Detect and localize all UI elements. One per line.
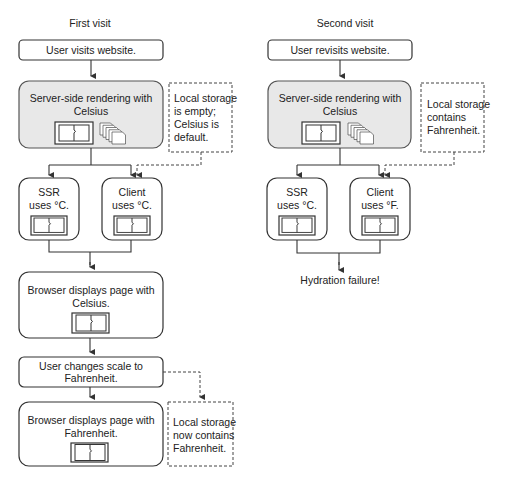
page-component-icon xyxy=(302,122,340,144)
browser-celsius-box: Browser displays page with Celsius. xyxy=(19,272,163,338)
change-scale-line1: User changes scale to xyxy=(39,360,143,372)
client-uses-c-box: Client uses °C. xyxy=(102,178,162,240)
ssr-box2-line1: SSR xyxy=(286,186,308,198)
hydration-failure-label: Hydration failure! xyxy=(300,274,379,286)
ssr-label-line1: Server-side rendering with xyxy=(30,92,153,104)
ssr-celsius-box: Server-side rendering with Celsius xyxy=(19,81,163,148)
client-box-line2: uses °C. xyxy=(112,199,152,211)
ssr-box-line2: uses °C. xyxy=(29,199,69,211)
storage-note-fahrenheit: Local storage now contains Fahrenheit. xyxy=(168,402,236,466)
page-component-icon xyxy=(114,216,150,235)
storage-note3-line2: contains xyxy=(427,111,466,123)
ssr-box-line1: SSR xyxy=(38,186,60,198)
first-visit-title: First visit xyxy=(69,17,110,29)
ssr-celsius-box-2: Server-side rendering with Celsius xyxy=(268,81,411,148)
ssr-box2-line2: uses °C. xyxy=(277,199,317,211)
client-box2-line2: uses °F. xyxy=(361,199,398,211)
browser-fahrenheit-line2: Fahrenheit. xyxy=(64,427,117,439)
browser-celsius-line2: Celsius. xyxy=(72,297,109,309)
hydration-diagram: First visit User visits website. Server-… xyxy=(0,0,505,483)
user-visits-box: User visits website. xyxy=(19,40,163,60)
ssr-uses-c-box-2: SSR uses °C. xyxy=(267,178,327,240)
second-visit-title: Second visit xyxy=(317,17,374,29)
storage-note-line2: is empty; xyxy=(174,105,216,117)
ssr-uses-c-box: SSR uses °C. xyxy=(19,178,79,240)
storage-note3-line1: Local storage xyxy=(427,98,490,110)
storage-note2-line3: Fahrenheit. xyxy=(173,442,226,454)
ssr2-label-line2: Celsius xyxy=(323,105,357,117)
browser-fahrenheit-box: Browser displays page with Fahrenheit. xyxy=(19,402,163,466)
user-revisits-box: User revisits website. xyxy=(268,40,412,60)
client-box-line1: Client xyxy=(119,186,146,198)
page-component-icon xyxy=(31,216,67,235)
browser-celsius-line1: Browser displays page with xyxy=(27,284,154,296)
client-uses-f-box: Client uses °F. xyxy=(350,178,410,240)
ssr-label-line2: Celsius xyxy=(74,105,108,117)
page-component-icon xyxy=(55,122,93,144)
storage-note-empty: Local storage is empty; Celsius is defau… xyxy=(169,83,237,152)
page-component-icon xyxy=(362,216,398,235)
user-revisits-label: User revisits website. xyxy=(290,44,389,56)
page-component-icon xyxy=(71,443,108,462)
change-scale-line2: Fahrenheit. xyxy=(64,372,117,384)
storage-note2-line1: Local storage xyxy=(173,416,236,428)
storage-note2-line2: now contains xyxy=(173,429,234,441)
second-visit-column: Second visit User revisits website. Serv… xyxy=(267,17,490,286)
first-visit-column: First visit User visits website. Server-… xyxy=(19,17,237,466)
storage-note3-line3: Fahrenheit. xyxy=(427,124,480,136)
page-component-icon xyxy=(279,216,315,235)
storage-note-line3: Celsius is xyxy=(174,118,219,130)
storage-note-line4: default. xyxy=(174,131,208,143)
browser-fahrenheit-line1: Browser displays page with xyxy=(27,414,154,426)
change-scale-box: User changes scale to Fahrenheit. xyxy=(19,357,163,387)
storage-note-contains: Local storage contains Fahrenheit. xyxy=(421,83,490,152)
user-visits-label: User visits website. xyxy=(46,44,136,56)
storage-note-line1: Local storage xyxy=(174,92,237,104)
client-box2-line1: Client xyxy=(367,186,394,198)
page-component-icon xyxy=(72,313,109,333)
ssr2-label-line1: Server-side rendering with xyxy=(279,92,402,104)
